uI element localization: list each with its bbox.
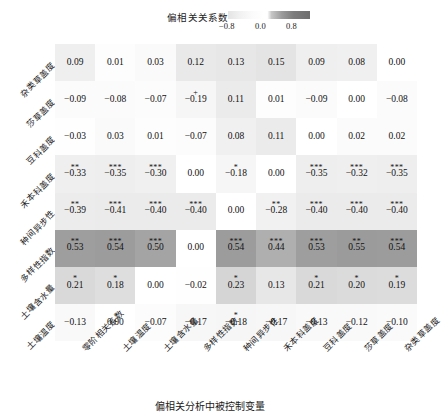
significance-marker: *** (310, 164, 323, 172)
significance-marker: *** (390, 201, 403, 209)
heatmap-cell: 0.54*** (95, 230, 135, 267)
significance-marker: * (354, 275, 358, 283)
legend-colorbar (228, 11, 310, 19)
heatmap-cell: −0.41*** (95, 193, 135, 230)
heatmap-cell: 0.08 (337, 44, 377, 81)
significance-marker: *** (149, 201, 162, 209)
cell-value: 0.02 (348, 132, 365, 142)
cell-value: −0.40*** (386, 206, 408, 216)
cell-value: −0.40*** (346, 206, 368, 216)
cell-value: 0.18* (107, 281, 124, 291)
cell-value: 0.12 (187, 58, 204, 68)
cell-value: −0.08 (104, 95, 126, 105)
cell-value: −0.03 (64, 132, 86, 142)
cell-value: 0.03 (107, 132, 124, 142)
cell-value: 0.21* (67, 281, 84, 291)
heatmap-cell: 0.11 (256, 118, 296, 155)
cell-value: −0.41*** (104, 206, 126, 216)
heatmap-cell: 0.00 (296, 118, 336, 155)
heatmap-cell: 0.00 (176, 230, 216, 267)
significance-marker: *** (149, 238, 162, 246)
cell-value: 0.02 (389, 132, 406, 142)
significance-marker: *** (390, 164, 403, 172)
heatmap-cell: 0.54*** (216, 230, 256, 267)
heatmap-cell: 0.21* (55, 267, 95, 304)
cell-value: 0.01 (147, 132, 164, 142)
heatmap-cell: 0.18* (95, 267, 135, 304)
significance-marker: * (395, 275, 399, 283)
x-axis-title: 偏相关分析中被控制变量 (0, 398, 419, 413)
legend-tick-labels: −0.8 0.0 0.8 (219, 21, 323, 34)
significance-marker: *** (229, 238, 242, 246)
legend-tick-high: 0.8 (286, 21, 297, 31)
y-axis-label: 土壤含水量 (17, 281, 57, 321)
cell-value: 0.00 (228, 206, 245, 216)
y-axis-label: 豆科盖度 (23, 133, 57, 167)
heatmap-cell: 0.00 (176, 155, 216, 192)
heatmap-cell: 0.01 (95, 44, 135, 81)
heatmap-cell: 0.02 (377, 118, 417, 155)
heatmap-cell: −0.40*** (377, 193, 417, 230)
heatmap-cell: 0.08 (216, 118, 256, 155)
significance-marker: ** (71, 201, 80, 209)
heatmap-cell: −0.40*** (135, 193, 175, 230)
cell-value: −0.40*** (185, 206, 207, 216)
heatmap-cell: 0.15 (256, 44, 296, 81)
heatmap-cell: −0.07 (135, 81, 175, 118)
cell-value: 0.09 (67, 58, 84, 68)
heatmap-cell: −0.30*** (135, 155, 175, 192)
heatmap-cell: −0.40*** (337, 193, 377, 230)
heatmap-grid: 0.090.010.030.120.130.150.090.080.00−0.0… (55, 44, 417, 341)
cell-value: −0.40*** (145, 206, 167, 216)
heatmap-cell: 0.03 (135, 44, 175, 81)
heatmap-cell: −0.02 (176, 267, 216, 304)
cell-value: −0.33** (64, 169, 86, 179)
cell-value: 0.00 (308, 132, 325, 142)
cell-value: 0.00 (187, 243, 204, 253)
cell-value: −0.08 (386, 95, 408, 105)
significance-marker: *** (189, 201, 202, 209)
cell-value: 0.13 (228, 58, 245, 68)
cell-value: 0.23* (228, 281, 245, 291)
significance-marker: *** (109, 164, 122, 172)
cell-value: −0.30*** (145, 169, 167, 179)
cell-value: 0.13 (268, 281, 285, 291)
legend-tick-low: −0.8 (219, 21, 234, 31)
legend-tick-mid: 0.0 (255, 21, 266, 31)
cell-value: −0.07 (185, 132, 207, 142)
heatmap-cell: 0.01 (135, 118, 175, 155)
cell-value: −0.19+ (185, 95, 207, 105)
cell-value: 0.03 (147, 58, 164, 68)
significance-marker: * (234, 164, 238, 172)
heatmap-cell: 0.00 (337, 81, 377, 118)
heatmap-cell: 0.00 (256, 155, 296, 192)
cell-value: 0.54*** (107, 243, 124, 253)
cell-value: 0.21* (308, 281, 325, 291)
significance-marker: + (193, 89, 198, 97)
heatmap-cell: 0.20* (337, 267, 377, 304)
cell-value: 0.54*** (389, 243, 406, 253)
significance-marker: *** (109, 201, 122, 209)
significance-marker: * (314, 275, 318, 283)
heatmap-cell: −0.19+ (176, 81, 216, 118)
cell-value: 0.00 (348, 95, 365, 105)
heatmap-cell: 0.09 (296, 44, 336, 81)
cell-value: −0.09 (305, 95, 327, 105)
heatmap-cell: −0.35*** (377, 155, 417, 192)
heatmap-cell: 0.53*** (296, 230, 336, 267)
y-axis-labels: 杂类草盖度莎草盖度豆科盖度禾本科盖度种间异步性多样性指数土壤含水量土壤温度 (0, 44, 56, 341)
cell-value: −0.13 (64, 318, 86, 328)
heatmap-cell: −0.35*** (296, 155, 336, 192)
cell-value: 0.50*** (147, 243, 164, 253)
heatmap-cell: 0.19* (377, 267, 417, 304)
heatmap-cell: −0.09 (296, 81, 336, 118)
cell-value: −0.35*** (104, 169, 126, 179)
heatmap-cell: 0.44*** (256, 230, 296, 267)
heatmap-cell: 0.00 (216, 193, 256, 230)
y-axis-label: 种间异步性 (17, 207, 57, 247)
heatmap-cell: 0.09 (55, 44, 95, 81)
cell-value: −0.02 (185, 281, 207, 291)
cell-value: 0.00 (147, 281, 164, 291)
heatmap-cell: 0.12 (176, 44, 216, 81)
